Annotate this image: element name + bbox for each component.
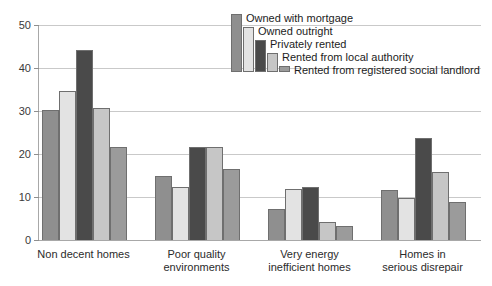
y-axis-tick-label: 10 <box>19 191 31 203</box>
y-axis-tick-label: 50 <box>19 19 31 31</box>
bar <box>302 187 319 240</box>
x-axis-category-label: Homes in serious disrepair <box>353 248 492 274</box>
bar <box>155 176 172 241</box>
legend-label: Owned outright <box>258 26 333 37</box>
bar <box>110 147 127 240</box>
bar <box>319 222 336 240</box>
bar <box>206 147 223 240</box>
legend-swatch <box>279 66 290 72</box>
legend-swatch <box>231 14 242 72</box>
y-axis-tick-label: 40 <box>19 62 31 74</box>
bar-cluster <box>42 25 127 240</box>
bar <box>336 226 353 240</box>
bar <box>432 172 449 240</box>
legend-label: Rented from local authority <box>282 52 413 63</box>
y-axis-tick <box>34 111 39 112</box>
legend-swatch <box>243 27 254 72</box>
bar <box>76 50 93 240</box>
bar <box>59 91 76 240</box>
y-axis-tick <box>34 68 39 69</box>
bar-cluster <box>155 25 240 240</box>
y-axis-tick-label: 30 <box>19 105 31 117</box>
bar <box>398 198 415 240</box>
bar <box>449 202 466 240</box>
bar <box>172 187 189 240</box>
bar <box>189 147 206 240</box>
bar <box>42 110 59 240</box>
legend-swatch <box>255 40 266 72</box>
y-axis-tick-label: 0 <box>25 234 31 246</box>
bar <box>93 108 110 240</box>
y-axis-tick <box>34 197 39 198</box>
bar <box>415 138 432 240</box>
y-axis-tick <box>34 25 39 26</box>
legend-item[interactable]: Rented from registered social landlord <box>279 66 480 76</box>
bar-chart: 01020304050 Non decent homesPoor quality… <box>0 0 492 286</box>
bar <box>268 209 285 240</box>
bar <box>223 169 240 240</box>
legend-label: Owned with mortgage <box>246 13 353 24</box>
legend-swatch <box>267 53 278 72</box>
legend-label: Privately rented <box>270 39 346 50</box>
y-axis-tick <box>34 240 39 241</box>
y-axis-tick <box>34 154 39 155</box>
legend-label: Rented from registered social landlord <box>294 65 480 76</box>
bar <box>285 189 302 240</box>
bar <box>381 190 398 240</box>
y-axis-tick-label: 20 <box>19 148 31 160</box>
